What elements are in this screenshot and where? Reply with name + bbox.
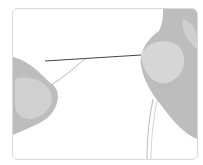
thread-left — [51, 59, 85, 85]
thread-right-2 — [151, 101, 157, 159]
thread-right — [147, 99, 153, 159]
right-hand — [141, 9, 197, 139]
photo-frame — [12, 8, 198, 160]
needle — [45, 55, 141, 61]
left-hand — [13, 57, 58, 135]
needle-threading-illustration — [13, 9, 197, 159]
